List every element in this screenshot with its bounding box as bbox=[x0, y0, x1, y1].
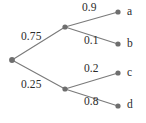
node-branch-lower bbox=[62, 86, 67, 91]
edge-label-lower-to-c: 0.2 bbox=[84, 63, 99, 75]
tree-graph-canvas bbox=[0, 0, 146, 123]
leaf-label-b: b bbox=[127, 38, 133, 50]
node-leaf-a bbox=[115, 9, 120, 14]
node-leaf-d bbox=[115, 103, 120, 108]
leaf-label-d: d bbox=[127, 99, 133, 111]
edge-lower-to-c bbox=[65, 73, 118, 89]
edge-upper-to-a bbox=[65, 12, 118, 27]
edge-label-root-to-upper: 0.75 bbox=[21, 31, 42, 43]
leaf-label-c: c bbox=[127, 67, 132, 79]
edge-label-upper-to-b: 0.1 bbox=[84, 35, 99, 47]
edge-label-lower-to-d: 0.8 bbox=[84, 96, 99, 108]
probability-tree-diagram: 0.75 0.25 0.9 0.1 0.2 0.8 a b c d bbox=[0, 0, 146, 123]
leaf-label-a: a bbox=[127, 6, 132, 18]
edge-label-upper-to-a: 0.9 bbox=[82, 2, 97, 14]
node-root bbox=[9, 57, 15, 63]
node-leaf-c bbox=[115, 70, 120, 75]
edge-label-root-to-lower: 0.25 bbox=[21, 79, 42, 91]
tree-nodes bbox=[9, 9, 121, 108]
node-leaf-b bbox=[115, 41, 120, 46]
node-branch-upper bbox=[62, 24, 67, 29]
